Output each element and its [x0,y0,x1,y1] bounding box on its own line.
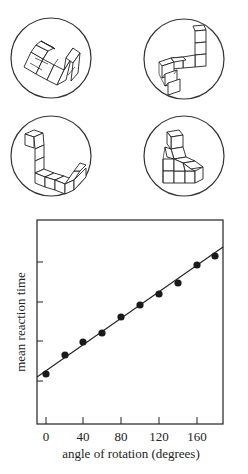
x-axis-ticks [46,417,197,424]
data-point [211,252,218,259]
x-tick-label: 120 [149,429,169,444]
cube-figure-top-left [8,15,94,101]
data-point [155,290,162,297]
cube-figure-bottom-right [141,113,227,199]
y-axis-ticks [37,262,43,381]
reaction-time-chart: 0 40 80 120 160 angle of rotation (degre… [0,205,248,474]
x-tick-label: 0 [43,429,50,444]
x-tick-labels: 0 40 80 120 160 [43,429,207,444]
cube-figure-top-right [141,16,227,102]
data-point [117,313,124,320]
y-axis-label: mean reaction time [13,272,28,372]
data-point [61,351,68,358]
x-tick-label: 160 [187,429,207,444]
mental-rotation-figure: 0 40 80 120 160 angle of rotation (degre… [0,0,248,474]
x-tick-label: 40 [77,429,90,444]
data-points [42,252,218,377]
data-point [98,329,105,336]
cube-figure-bottom-left [8,113,94,199]
plot-frame [37,220,223,424]
data-point [79,338,86,345]
x-tick-label: 80 [115,429,128,444]
data-point [193,261,200,268]
x-axis-label: angle of rotation (degrees) [62,446,200,461]
data-point [42,370,49,377]
stimulus-panel [0,0,248,205]
data-point [174,279,181,286]
data-point [136,301,143,308]
